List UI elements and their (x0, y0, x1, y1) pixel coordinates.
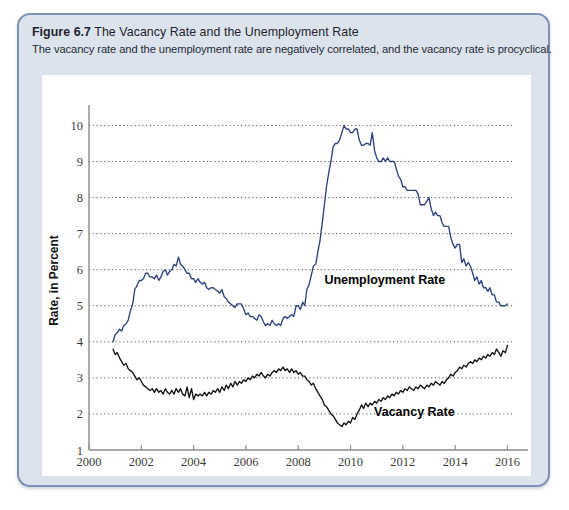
x-axis-tick-labels: 200020022004200620082010201220142016 (77, 455, 520, 469)
figure-caption: Figure 6.7 The Vacancy Rate and the Unem… (32, 25, 537, 56)
x-tick-label: 2014 (443, 455, 469, 469)
y-tick-label: 10 (71, 119, 84, 133)
series-annotation-vacancy-rate: Vacancy Rate (374, 405, 455, 419)
figure-title-text: The Vacancy Rate and the Unemployment Ra… (94, 25, 358, 39)
line-chart: 12345678910 2000200220042006200820102012… (42, 75, 531, 476)
y-tick-label: 9 (77, 155, 83, 169)
figure-number: Figure 6.7 (32, 25, 91, 39)
y-tick-label: 2 (77, 407, 83, 421)
x-tick-label: 2008 (286, 455, 311, 469)
x-tick-label: 2002 (129, 455, 154, 469)
figure-subtitle: The vacancy rate and the unemployment ra… (32, 42, 537, 56)
y-tick-label: 4 (77, 335, 84, 349)
x-tick-label: 2012 (390, 455, 415, 469)
x-tick-label: 2016 (495, 455, 520, 469)
tick-marks-group (89, 445, 507, 450)
y-tick-label: 8 (77, 191, 83, 205)
y-axis-tick-labels: 12345678910 (71, 119, 84, 458)
x-tick-label: 2010 (338, 455, 363, 469)
y-tick-label: 5 (77, 299, 83, 313)
y-tick-label: 7 (77, 227, 83, 241)
data-series-group (113, 125, 507, 426)
series-annotation-unemployment-rate: Unemployment Rate (324, 273, 445, 287)
figure-panel: Figure 6.7 The Vacancy Rate and the Unem… (17, 13, 550, 487)
figure-title: Figure 6.7 The Vacancy Rate and the Unem… (32, 25, 537, 40)
chart-plot-area: 12345678910 2000200220042006200820102012… (42, 75, 531, 476)
x-tick-label: 2000 (77, 455, 102, 469)
x-tick-label: 2006 (233, 455, 258, 469)
y-axis-title: Rate, in Percent (47, 235, 61, 326)
y-tick-label: 3 (77, 371, 83, 385)
gridlines-group (89, 125, 514, 414)
x-tick-label: 2004 (181, 455, 207, 469)
y-tick-label: 6 (77, 263, 83, 277)
